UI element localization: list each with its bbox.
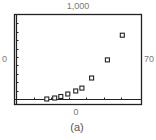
data-point-marker <box>80 86 84 90</box>
plot-area <box>0 0 156 140</box>
figure-caption: (a) <box>65 122 89 133</box>
data-point-marker <box>90 76 94 80</box>
data-point-marker <box>120 33 124 37</box>
xmin-label: 0 <box>2 55 7 64</box>
data-point-marker <box>53 96 57 100</box>
data-point-marker <box>45 97 49 101</box>
data-point-marker <box>105 58 109 62</box>
ymax-label: 1,000 <box>62 2 94 11</box>
data-point-marker <box>66 92 70 96</box>
data-point-marker <box>74 89 78 93</box>
data-point-marker <box>59 95 63 99</box>
xmax-label: 70 <box>144 55 154 64</box>
ymin-label: 0 <box>72 108 80 117</box>
